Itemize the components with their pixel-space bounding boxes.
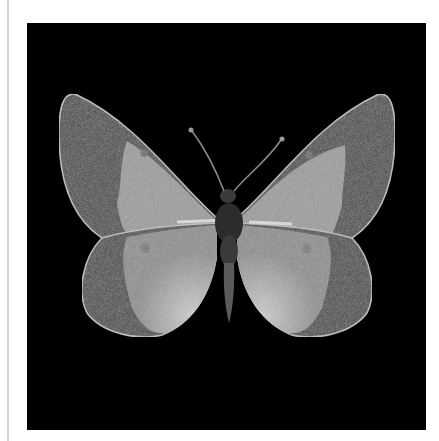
butterfly-illustration [27, 23, 426, 430]
right-costa-highlight [249, 222, 292, 224]
left-hindwing [82, 223, 217, 337]
butterfly-photo: Butterfly specimen [27, 23, 426, 430]
right-hindwing [237, 223, 372, 337]
left-forewing [59, 94, 217, 238]
antennae [189, 128, 285, 192]
page-edge-line [7, 0, 9, 441]
right-forewing [237, 94, 395, 238]
